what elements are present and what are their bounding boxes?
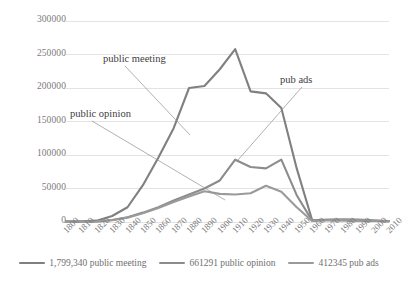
series-line bbox=[66, 160, 389, 222]
annotation-leader-line bbox=[125, 66, 190, 135]
legend-label: 1,799,340 public meeting bbox=[49, 258, 146, 268]
annotation-label: public meeting bbox=[103, 53, 166, 64]
legend-swatch bbox=[288, 262, 314, 264]
legend-item[interactable]: 1,799,340 public meeting bbox=[19, 258, 146, 268]
legend-item[interactable]: 412345 pub ads bbox=[288, 258, 378, 268]
legend-item[interactable]: 661291 public opinion bbox=[159, 258, 275, 268]
gridlines bbox=[66, 21, 389, 222]
series-line bbox=[66, 49, 389, 221]
annotation-label: public opinion bbox=[70, 108, 131, 119]
series-lines bbox=[66, 49, 389, 222]
annotation-label: pub ads bbox=[280, 74, 312, 85]
legend-label: 661291 public opinion bbox=[189, 258, 275, 268]
legend: 1,799,340 public meeting661291 public op… bbox=[0, 258, 398, 268]
legend-swatch bbox=[19, 262, 45, 264]
legend-swatch bbox=[159, 262, 185, 264]
legend-label: 412345 pub ads bbox=[318, 258, 378, 268]
